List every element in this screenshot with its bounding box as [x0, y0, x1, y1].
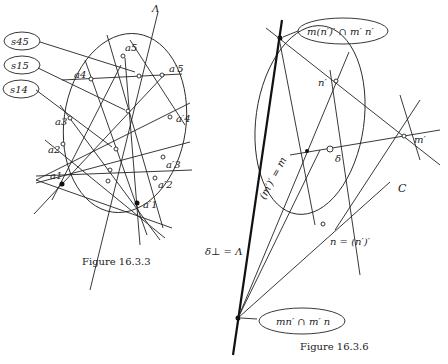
svg-text:a1: a1: [50, 170, 62, 181]
svg-text:Λ: Λ: [151, 3, 159, 14]
callout-s14: s14: [3, 80, 39, 98]
figure-16-3-6: m(n′)′ ∩ m′ n′ mn′ ∩ m′ n n′ m′ δ C n = …: [205, 18, 440, 355]
svg-text:a5: a5: [125, 42, 137, 53]
axis-line: [90, 12, 158, 290]
caption-16-3-6: Figure 16.3.6: [300, 341, 369, 352]
svg-text:a′1: a′1: [143, 199, 158, 210]
caption-16-3-3: Figure 16.3.3: [82, 256, 151, 267]
svg-text:a′4: a′4: [176, 113, 191, 124]
svg-text:mn′ ∩ m′ n: mn′ ∩ m′ n: [276, 316, 330, 327]
svg-text:a3: a3: [55, 116, 67, 127]
svg-text:δ⊥ = Λ: δ⊥ = Λ: [205, 246, 242, 257]
callout-top-intersection: m(n′)′ ∩ m′ n′: [283, 18, 388, 44]
svg-text:a4: a4: [74, 69, 86, 80]
svg-text:s15: s15: [11, 60, 29, 71]
diagram-canvas: s45 s15 s14 Λ a5 a4 a3 a2 a1 a′5: [0, 0, 448, 364]
svg-text:C: C: [398, 182, 407, 195]
svg-text:a′5: a′5: [169, 63, 184, 74]
svg-text:m′: m′: [414, 134, 426, 145]
svg-text:s14: s14: [10, 84, 28, 95]
callout-s15: s15: [4, 56, 40, 74]
figure-16-3-3: s45 s15 s14 Λ a5 a4 a3 a2 a1 a′5: [3, 3, 198, 290]
svg-text:m(n′)′ ∩ m′ n′: m(n′)′ ∩ m′ n′: [307, 26, 374, 37]
svg-text:a′2: a′2: [158, 179, 173, 190]
svg-text:n′: n′: [318, 77, 327, 88]
svg-text:a′3: a′3: [166, 159, 181, 170]
delta-perp-line: [233, 20, 282, 355]
svg-text:s45: s45: [11, 36, 29, 47]
svg-text:n = (n′)′: n = (n′)′: [330, 236, 371, 247]
callout-s45: s45: [4, 32, 40, 50]
svg-text:δ: δ: [335, 153, 341, 164]
svg-text:a2: a2: [48, 144, 60, 155]
callout-bottom-intersection: mn′ ∩ m′ n: [241, 308, 345, 334]
